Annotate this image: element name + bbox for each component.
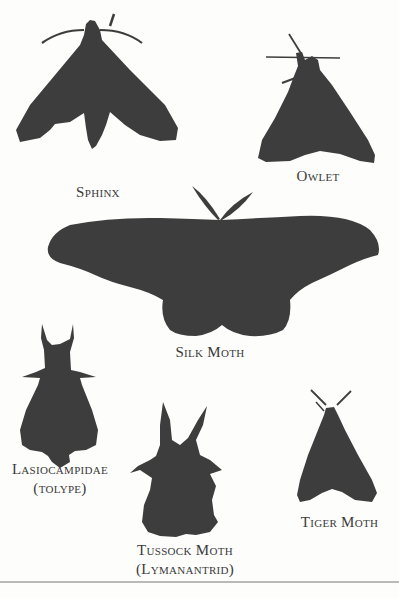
tussock-moth-silhouette (130, 402, 222, 537)
lasiocampid-moth-silhouette (20, 324, 98, 468)
page-divider (0, 581, 399, 583)
tussock-moth-label: Tussock Moth (115, 541, 255, 560)
tiger-moth-label: Tiger Moth (280, 513, 399, 532)
owlet-moth-silhouette (258, 34, 375, 163)
sphinx-moth-silhouette (16, 14, 178, 149)
owlet-label: Owlet (254, 167, 382, 186)
lasiocampidae-sublabel: (tolype) (0, 479, 120, 498)
silk-moth-silhouette (48, 186, 379, 336)
silk-moth-label: Silk Moth (150, 343, 270, 362)
sphinx-label: Sphinx (18, 183, 178, 202)
moth-silhouettes (0, 0, 399, 598)
tiger-moth-silhouette (297, 390, 377, 502)
moth-silhouette-plate: Sphinx Owlet Silk Moth Lasiocampidae (to… (0, 0, 399, 598)
tussock-moth-sublabel: (Lymanantrid) (115, 560, 255, 579)
lasiocampidae-label: Lasiocampidae (0, 460, 120, 479)
